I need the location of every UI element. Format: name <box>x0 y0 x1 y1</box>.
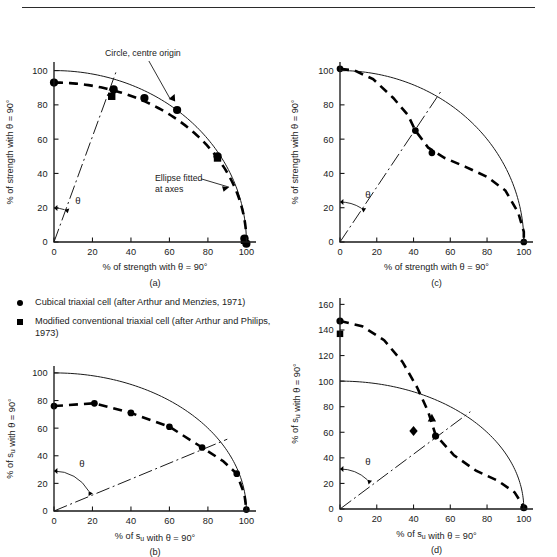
y-tick-label: 20 <box>37 203 47 213</box>
y-tick-label: 20 <box>323 203 333 213</box>
y-axis-title: % of su with θ = 90° <box>290 363 302 444</box>
y-tick-label: 80 <box>37 396 47 406</box>
chart-d: θ020406080100020406080100120140160% of s… <box>284 282 557 557</box>
theta-arrowhead <box>367 480 372 485</box>
y-tick-label: 80 <box>323 402 333 412</box>
x-tick-label: 60 <box>164 516 174 526</box>
y-tick-label: 20 <box>37 479 47 489</box>
reference-circle-arc <box>340 381 524 509</box>
data-point-circle <box>110 85 118 93</box>
x-tick-label: 0 <box>337 514 342 524</box>
x-tick-label: 40 <box>126 247 136 257</box>
x-tick-label: 100 <box>239 247 254 257</box>
y-tick-label: 120 <box>318 351 333 361</box>
data-point-circle <box>173 106 181 114</box>
x-tick-label: 80 <box>482 514 492 524</box>
y-tick-label: 60 <box>323 135 333 145</box>
theta-label: θ <box>75 195 80 206</box>
data-point-square <box>241 237 248 244</box>
y-axis-title: % of strength with θ = 90° <box>290 99 300 204</box>
reference-circle-arc <box>340 71 524 242</box>
theta-ray <box>340 412 470 509</box>
x-tick-label: 20 <box>372 514 382 524</box>
fitted-curve <box>54 403 246 509</box>
x-tick-label: 60 <box>164 247 174 257</box>
fitted-ellipse-curve <box>54 83 246 242</box>
theta-label: θ <box>365 456 370 467</box>
x-tick-label: 20 <box>87 247 97 257</box>
y-tick-label: 80 <box>323 100 333 110</box>
y-tick-label: 60 <box>323 428 333 438</box>
y-tick-label: 0 <box>42 506 47 516</box>
data-point-circle <box>199 444 206 451</box>
axes <box>340 62 533 242</box>
theta-arc <box>340 469 367 480</box>
axes <box>54 366 256 511</box>
x-axis-title: % of su with θ = 90° <box>396 529 477 541</box>
y-tick-label: 100 <box>318 377 333 387</box>
y-tick-label: 100 <box>318 66 333 76</box>
y-tick-label: 20 <box>323 479 333 489</box>
data-point-square <box>108 93 115 100</box>
legend-item: Cubical triaxial cell (after Arthur and … <box>16 296 286 310</box>
chart-c: θ020406080100020406080100% of strength w… <box>284 18 557 290</box>
figure-legend: Cubical triaxial cell (after Arthur and … <box>16 296 286 345</box>
panel-d: θ020406080100020406080100120140160% of s… <box>284 282 557 557</box>
x-tick-label: 60 <box>445 247 455 257</box>
ellipse-annotation: Ellipse fittedat axes <box>155 173 203 194</box>
x-tick-label: 40 <box>126 516 136 526</box>
figure-page: θ020406080100020406080100% of strength w… <box>0 0 557 557</box>
panel-label: (a) <box>149 278 160 288</box>
theta-arrowhead <box>361 208 366 212</box>
ellipse-annotation-leader <box>201 179 229 187</box>
circle-marker-icon <box>16 296 26 310</box>
x-tick-label: 80 <box>203 247 213 257</box>
x-axis-title: % of su with θ = 90° <box>115 531 196 543</box>
panel-label: (d) <box>431 545 442 555</box>
panel-label: (b) <box>149 547 160 557</box>
data-point-circle <box>429 150 436 157</box>
x-tick-label: 100 <box>239 516 254 526</box>
panel-a: θ020406080100020406080100% of strength w… <box>2 18 282 290</box>
reference-circle-arc <box>54 373 246 511</box>
theta-label: θ <box>365 189 370 200</box>
data-point-circle <box>128 410 135 417</box>
x-tick-label: 60 <box>445 514 455 524</box>
x-tick-label: 40 <box>408 514 418 524</box>
legend-item-label: Modified conventional triaxial cell (aft… <box>35 315 286 340</box>
data-point-diamond <box>409 426 417 436</box>
y-tick-label: 60 <box>37 135 47 145</box>
y-axis-title: % of su with θ = 90° <box>5 398 17 479</box>
y-tick-label: 140 <box>318 325 333 335</box>
data-point-circle <box>140 94 148 102</box>
data-point-circle <box>412 127 419 134</box>
y-axis-title: % of strength with θ = 90° <box>5 99 15 204</box>
axes <box>54 62 256 242</box>
y-tick-label: 60 <box>37 424 47 434</box>
x-tick-label: 100 <box>516 514 531 524</box>
x-tick-label: 80 <box>203 516 213 526</box>
x-tick-label: 40 <box>408 247 418 257</box>
y-tick-label: 40 <box>323 169 333 179</box>
y-tick-label: 160 <box>318 300 333 310</box>
y-tick-label: 80 <box>37 100 47 110</box>
x-tick-label: 100 <box>516 247 531 257</box>
x-tick-label: 80 <box>482 247 492 257</box>
y-tick-label: 100 <box>32 368 47 378</box>
legend-item: Modified conventional triaxial cell (aft… <box>16 315 286 340</box>
circle-annotation-leader <box>149 61 170 98</box>
data-point-circle <box>91 400 98 407</box>
x-tick-label: 20 <box>372 247 382 257</box>
y-tick-label: 0 <box>328 504 333 514</box>
x-tick-label: 0 <box>337 247 342 257</box>
y-tick-label: 0 <box>42 237 47 247</box>
theta-label: θ <box>79 458 84 469</box>
y-tick-label: 40 <box>323 453 333 463</box>
theta-arc <box>54 471 89 491</box>
page-top-rule <box>22 7 535 8</box>
circle-annotation: Circle, centre origin <box>105 48 181 58</box>
x-axis-title: % of strength with θ = 90° <box>102 262 207 272</box>
theta-ray <box>340 91 441 242</box>
x-tick-label: 0 <box>51 247 56 257</box>
legend-item-label: Cubical triaxial cell (after Arthur and … <box>35 296 245 308</box>
